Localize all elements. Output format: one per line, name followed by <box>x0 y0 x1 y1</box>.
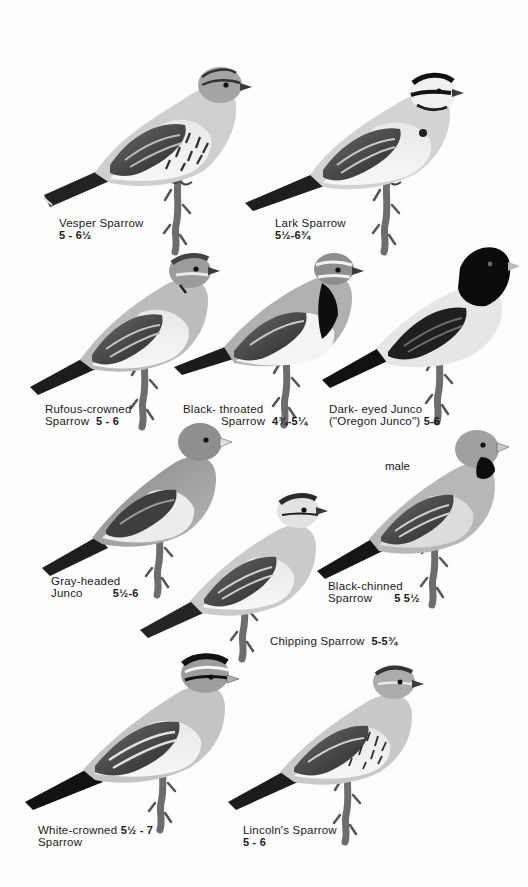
species-size: 5-5¾ <box>371 635 397 647</box>
caption-lincolns-sparrow: Lincoln's Sparrow 5 - 6 <box>243 824 337 848</box>
caption-white-crowned-sparrow: White-crowned 5½ - 7 Sparrow <box>38 824 153 848</box>
lincolns-sparrow-illustration <box>228 660 423 835</box>
species-size: 5½-6 <box>113 587 139 599</box>
species-name: Black- throated <box>183 403 307 415</box>
species-size: 5 5½ <box>394 592 419 604</box>
black-chinned-sparrow-illustration <box>315 425 505 595</box>
species-name-line2: Sparrow <box>221 415 265 427</box>
caption-vesper-sparrow: Vesper Sparrow 5 - 6½ <box>59 217 144 241</box>
species-name: Lincoln's Sparrow <box>243 824 337 836</box>
species-name: Vesper Sparrow <box>59 217 144 229</box>
species-size: 4¾-5¼ <box>272 415 307 427</box>
species-name: White-crowned <box>38 824 117 836</box>
caption-black-chinned-sparrow: Black-chinned Sparrow5 5½ <box>328 580 420 604</box>
species-size: 5½ - 7 <box>121 824 153 836</box>
field-guide-plate: Vesper Sparrow 5 - 6½ Lark Sparrow 5½-6¾ <box>0 0 528 887</box>
caption-gray-headed-junco: Gray-headed Junco5½-6 <box>51 575 139 599</box>
species-name-line2: Sparrow <box>328 592 372 604</box>
species-name: Chipping Sparrow <box>270 635 365 647</box>
caption-chipping-sparrow: Chipping Sparrow 5-5¾ <box>270 635 397 647</box>
species-size: 5 - 6½ <box>59 229 144 241</box>
caption-dark-eyed-junco: Dark- eyed Junco ("Oregon Junco") 5-6 <box>329 403 440 427</box>
species-name: Dark- eyed Junco <box>329 403 440 415</box>
species-name-line2: Junco <box>51 587 83 599</box>
dark-eyed-junco-illustration <box>320 238 510 413</box>
species-name-line2: Sparrow <box>38 836 153 848</box>
species-size: 5 - 6 <box>243 836 337 848</box>
chipping-sparrow-illustration <box>140 485 325 660</box>
white-crowned-sparrow-illustration <box>25 650 240 835</box>
species-name: Rufous-crowned <box>45 403 132 415</box>
species-name: Black-chinned <box>328 580 420 592</box>
species-name: Lark Sparrow <box>275 217 346 229</box>
species-name: Gray-headed <box>51 575 139 587</box>
